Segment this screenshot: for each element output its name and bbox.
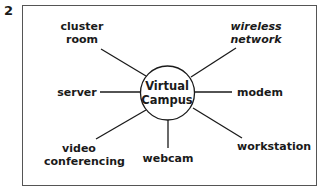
connector-cluster-room: [101, 49, 146, 76]
center-line1: Virtual: [140, 79, 194, 93]
node-line1: cluster: [57, 20, 107, 33]
connector-workstation: [193, 108, 242, 138]
node-line2: conferencing: [44, 155, 114, 168]
node-line1: webcam: [142, 152, 194, 165]
node-line1: modem: [236, 86, 284, 99]
node-line1: server: [57, 86, 97, 99]
connector-wireless-network: [191, 48, 236, 77]
node-line1: video: [44, 142, 114, 155]
node-line1: workstation: [237, 140, 303, 153]
node-video-conferencing: video conferencing: [44, 142, 114, 168]
center-line2: Campus: [140, 93, 194, 107]
node-cluster-room: cluster room: [57, 20, 107, 46]
node-wireless-network: wireless network: [228, 20, 284, 46]
node-line2: room: [57, 33, 107, 46]
node-modem: modem: [236, 86, 284, 99]
node-webcam: webcam: [142, 152, 194, 165]
center-node-virtual-campus: Virtual Campus: [140, 79, 194, 107]
node-line2: network: [228, 33, 284, 46]
connector-video-conferencing: [96, 110, 146, 139]
node-server: server: [57, 86, 97, 99]
node-workstation: workstation: [237, 140, 303, 153]
node-line1: wireless: [228, 20, 284, 33]
